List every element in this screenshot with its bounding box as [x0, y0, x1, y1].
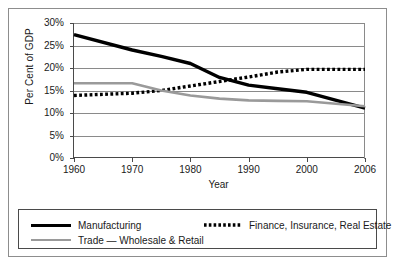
dotted-line-icon [203, 223, 243, 227]
chart-panel: Per Cent of GDP 0%5%10%15%20%25%30% 1960… [9, 9, 388, 201]
x-tick-label: 2006 [335, 164, 395, 175]
x-tick-mark [74, 158, 75, 162]
legend-label-finance: Finance, Insurance, Real Estate [249, 220, 391, 231]
x-tick-mark [365, 158, 366, 162]
y-tick-label: 25% [24, 41, 64, 51]
x-tick-mark [190, 158, 191, 162]
y-tick-label: 15% [24, 86, 64, 96]
x-tick-mark [307, 158, 308, 162]
series-lines-group [74, 23, 365, 158]
series-line [74, 35, 365, 108]
legend-box: Manufacturing Finance, Insurance, Real E… [18, 209, 377, 249]
x-tick-mark [132, 158, 133, 162]
legend-item-trade: Trade — Wholesale & Retail [31, 233, 204, 247]
legend-swatch-finance [202, 219, 242, 231]
legend-item-finance: Finance, Insurance, Real Estate [202, 218, 391, 232]
legend-swatch-manufacturing [31, 219, 71, 231]
x-tick-label: 1960 [44, 164, 104, 175]
x-tick-label: 1990 [219, 164, 279, 175]
y-tick-label: 0% [24, 153, 64, 163]
x-tick-label: 1980 [160, 164, 220, 175]
legend-label-manufacturing: Manufacturing [78, 220, 141, 231]
legend-swatch-trade [31, 234, 71, 246]
y-tick-label: 30% [24, 18, 64, 28]
y-tick-label: 5% [24, 131, 64, 141]
y-tick-label: 20% [24, 63, 64, 73]
plot-area: 0%5%10%15%20%25%30% 19601970198019902000… [73, 23, 364, 158]
x-tick-mark [249, 158, 250, 162]
x-tick-label: 1970 [102, 164, 162, 175]
figure-frame: Per Cent of GDP 0%5%10%15%20%25%30% 1960… [8, 8, 387, 257]
y-tick-label: 10% [24, 108, 64, 118]
legend-label-trade: Trade — Wholesale & Retail [78, 235, 204, 246]
x-tick-label: 2000 [277, 164, 337, 175]
legend-item-manufacturing: Manufacturing [31, 218, 141, 232]
x-axis-title: Year [73, 179, 364, 190]
